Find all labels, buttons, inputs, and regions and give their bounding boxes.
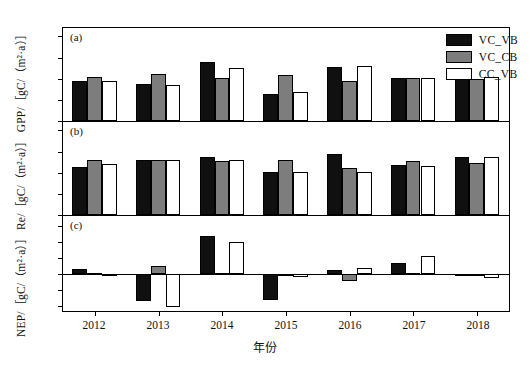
y-tick xyxy=(58,36,63,37)
legend-item-vc_vb: VC_VB xyxy=(446,31,518,48)
x-tick xyxy=(286,311,287,316)
bar-vc_vb-2017 xyxy=(391,263,406,273)
bar-cc_vb-2018 xyxy=(484,77,499,121)
bar-cc_vb-2012 xyxy=(102,164,117,215)
legend-label: CC_VB xyxy=(479,68,518,80)
x-axis-title: 年份 xyxy=(0,338,530,356)
panel-b-plot xyxy=(63,122,509,215)
y-tick xyxy=(58,226,63,227)
bar-vc_vb-2017 xyxy=(391,78,406,121)
panel-b-tag: (b) xyxy=(70,125,83,137)
bar-cc_vb-2017 xyxy=(421,166,436,215)
bar-vc_vb-2014 xyxy=(200,157,215,215)
y-tick xyxy=(58,152,63,153)
x-tick-label: 2013 xyxy=(147,319,170,331)
panel-a-plot xyxy=(63,28,509,121)
y-tick xyxy=(58,130,63,131)
x-tick-label: 2012 xyxy=(83,319,106,331)
bar-vc_vb-2013 xyxy=(136,160,151,215)
panel-a: (a) xyxy=(62,27,510,121)
legend-item-vc_cb: VC_CB xyxy=(446,48,518,65)
bar-vc_vb-2012 xyxy=(72,81,87,121)
bar-vc_vb-2018 xyxy=(455,274,470,276)
bar-cc_vb-2015 xyxy=(293,92,308,121)
x-tick-label: 2017 xyxy=(403,319,426,331)
y-tick xyxy=(58,194,63,195)
bar-cc_vb-2016 xyxy=(357,66,372,121)
bar-vc_cb-2016 xyxy=(342,274,357,281)
bar-vc_cb-2015 xyxy=(278,75,293,121)
bar-vc_cb-2018 xyxy=(469,163,484,215)
y-tick xyxy=(58,173,63,174)
bar-vc_cb-2016 xyxy=(342,168,357,215)
bar-cc_vb-2016 xyxy=(357,268,372,274)
bar-vc_cb-2017 xyxy=(406,273,421,275)
panel-b: (b) xyxy=(62,121,510,215)
bar-cc_vb-2017 xyxy=(421,78,436,121)
bar-cc_vb-2012 xyxy=(102,274,117,276)
bar-vc_cb-2013 xyxy=(151,266,166,274)
panel-c-tag: (c) xyxy=(70,219,82,231)
y-tick xyxy=(58,58,63,59)
figure: NEP/［gC/（m²·a）］ Re/［gC/（m²·a）］ GPP/［gC/（… xyxy=(0,0,530,366)
x-tick xyxy=(477,311,478,316)
bar-vc_vb-2014 xyxy=(200,62,215,121)
bar-vc_cb-2017 xyxy=(406,78,421,121)
bar-cc_vb-2017 xyxy=(421,256,436,274)
bar-cc_vb-2014 xyxy=(229,68,244,121)
bar-vc_cb-2012 xyxy=(87,273,102,275)
bar-vc_vb-2018 xyxy=(455,157,470,215)
bar-cc_vb-2015 xyxy=(293,274,308,277)
x-tick-label: 2018 xyxy=(467,319,490,331)
bar-vc_cb-2014 xyxy=(215,78,230,121)
bar-vc_cb-2013 xyxy=(151,74,166,121)
x-tick-label: 2015 xyxy=(275,319,298,331)
x-tick-label: 2016 xyxy=(339,319,362,331)
bar-vc_cb-2015 xyxy=(278,274,293,276)
bar-cc_vb-2014 xyxy=(229,242,244,274)
panel-c-plot xyxy=(63,216,509,311)
bar-vc_vb-2016 xyxy=(327,270,342,274)
y-tick xyxy=(58,100,63,101)
bar-vc_cb-2016 xyxy=(342,81,357,121)
y-tick xyxy=(58,258,63,259)
panel-c: (c) xyxy=(62,215,510,312)
bar-vc_cb-2014 xyxy=(215,273,230,275)
legend: VC_VBVC_CBCC_VB xyxy=(446,31,518,82)
bar-vc_vb-2013 xyxy=(136,274,151,301)
legend-swatch-vc_vb xyxy=(446,34,472,46)
bar-cc_vb-2014 xyxy=(229,160,244,215)
x-tick xyxy=(95,311,96,316)
bar-vc_cb-2018 xyxy=(469,79,484,121)
bar-vc_vb-2015 xyxy=(263,94,278,121)
legend-label: VC_VB xyxy=(479,34,518,46)
x-tick xyxy=(350,311,351,316)
bar-cc_vb-2012 xyxy=(102,81,117,121)
y-tick xyxy=(58,306,63,307)
bar-cc_vb-2013 xyxy=(166,85,181,121)
bar-cc_vb-2013 xyxy=(166,160,181,215)
bar-vc_vb-2015 xyxy=(263,172,278,215)
bar-vc_vb-2017 xyxy=(391,165,406,215)
legend-swatch-vc_cb xyxy=(446,51,472,63)
panel-a-tag: (a) xyxy=(70,31,82,43)
bar-vc_vb-2012 xyxy=(72,167,87,215)
bar-cc_vb-2018 xyxy=(484,274,499,278)
bar-vc_vb-2015 xyxy=(263,274,278,300)
bar-vc_cb-2015 xyxy=(278,160,293,215)
bar-vc_cb-2012 xyxy=(87,160,102,215)
x-tick xyxy=(159,311,160,316)
bar-vc_vb-2016 xyxy=(327,67,342,121)
legend-item-cc_vb: CC_VB xyxy=(446,65,518,82)
bar-vc_cb-2018 xyxy=(469,274,484,276)
bar-vc_vb-2016 xyxy=(327,154,342,215)
x-tick-label: 2014 xyxy=(211,319,234,331)
bar-vc_vb-2018 xyxy=(455,76,470,121)
y-tick xyxy=(58,242,63,243)
y-tick xyxy=(58,290,63,291)
bar-vc_cb-2012 xyxy=(87,77,102,121)
x-tick xyxy=(413,311,414,316)
bar-cc_vb-2015 xyxy=(293,172,308,215)
bar-cc_vb-2013 xyxy=(166,274,181,308)
y-axis-title: NEP/［gC/（m²·a）］ Re/［gC/（m²·a）］ GPP/［gC/（… xyxy=(12,3,28,363)
